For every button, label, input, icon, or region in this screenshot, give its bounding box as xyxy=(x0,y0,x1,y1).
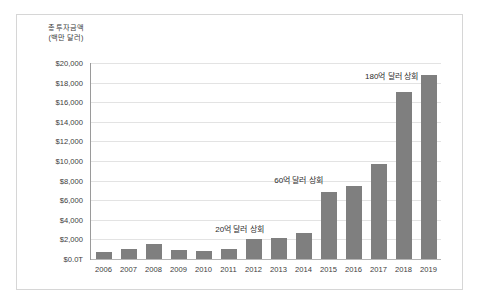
bar-2007 xyxy=(121,249,137,259)
y-axis-tick-label: $10,000 xyxy=(21,157,83,166)
y-axis-tick-label: $16,000 xyxy=(21,98,83,107)
y-axis-tick-label: $4,000 xyxy=(21,215,83,224)
bar-slot xyxy=(316,63,341,259)
bar-2008 xyxy=(146,244,162,259)
y-axis-tick-label: $18,000 xyxy=(21,78,83,87)
bar-2006 xyxy=(96,252,112,259)
chart-frame: 총 투자금액 (백만 달러) $0.0T$2,000$4,000$6,000$8… xyxy=(16,14,463,290)
bar-2017 xyxy=(371,164,387,259)
bar-slot xyxy=(91,63,116,259)
bar-2011 xyxy=(221,249,237,259)
bar-2016 xyxy=(346,186,362,260)
bar-slot xyxy=(416,63,441,259)
y-axis-tick-label: $14,000 xyxy=(21,117,83,126)
bar-2010 xyxy=(196,251,212,259)
y-axis-tick-label: $0.0T xyxy=(21,255,83,264)
annotation-label: 60억 달러 상회 xyxy=(274,174,322,185)
y-axis-tick-label: $12,000 xyxy=(21,137,83,146)
bar-slot xyxy=(291,63,316,259)
annotation-label: 20억 달러 상회 xyxy=(215,223,263,234)
bar-series xyxy=(91,63,441,259)
y-axis-tick-label: $8,000 xyxy=(21,176,83,185)
y-axis-tick-label: $2,000 xyxy=(21,235,83,244)
bar-slot xyxy=(266,63,291,259)
bar-2013 xyxy=(271,238,287,259)
bar-2014 xyxy=(296,233,312,259)
bar-2012 xyxy=(246,239,262,259)
bar-slot xyxy=(141,63,166,259)
y-axis-tick-label: $6,000 xyxy=(21,196,83,205)
bar-2019 xyxy=(421,75,437,259)
bar-2018 xyxy=(396,92,412,259)
y-axis-tick-label: $20,000 xyxy=(21,59,83,68)
annotation-label: 180억 달러 상회 xyxy=(365,70,418,81)
bar-slot xyxy=(166,63,191,259)
x-axis-tick-label: 2019 xyxy=(414,265,444,274)
gridline xyxy=(91,259,441,260)
bar-slot xyxy=(341,63,366,259)
bar-2015 xyxy=(321,192,337,259)
bar-slot xyxy=(391,63,416,259)
bar-slot xyxy=(191,63,216,259)
plot-area: 2006200720082009201020112012201320142015… xyxy=(91,63,441,259)
y-axis-title: 총 투자금액 (백만 달러) xyxy=(27,23,105,42)
bar-slot xyxy=(116,63,141,259)
bar-2009 xyxy=(171,250,187,259)
bar-slot xyxy=(366,63,391,259)
